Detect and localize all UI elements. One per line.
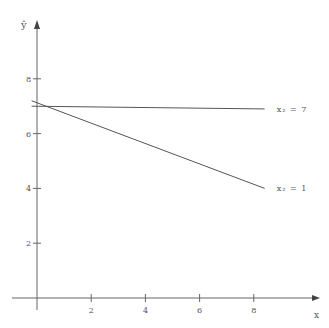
chart-canvas: x ŷ 2468 2468 x₂ = 7x₂ = 1 xyxy=(0,0,329,328)
y-axis-label: ŷ xyxy=(20,19,27,30)
series-line-0 xyxy=(32,106,265,109)
series-label-1: x₂ = 1 xyxy=(277,184,308,193)
x-tick-label: 8 xyxy=(251,306,256,315)
series-lines xyxy=(32,101,265,189)
x-tick-label: 6 xyxy=(197,306,202,315)
series-labels: x₂ = 7x₂ = 1 xyxy=(277,105,308,193)
series-label-0: x₂ = 7 xyxy=(277,105,308,114)
x-tick-label: 2 xyxy=(89,306,94,315)
y-tick-label: 6 xyxy=(26,130,31,139)
y-ticks: 2468 xyxy=(26,75,41,248)
x-axis-arrow-icon xyxy=(312,295,320,301)
axes: x ŷ xyxy=(12,19,320,320)
y-tick-label: 8 xyxy=(26,75,31,84)
x-tick-label: 4 xyxy=(143,306,148,315)
y-tick-label: 4 xyxy=(26,184,31,193)
x-ticks: 2468 xyxy=(89,294,257,315)
series-line-1 xyxy=(32,101,265,189)
x-axis-label: x xyxy=(314,310,319,320)
y-tick-label: 2 xyxy=(26,239,31,248)
y-axis-arrow-icon xyxy=(34,20,40,29)
